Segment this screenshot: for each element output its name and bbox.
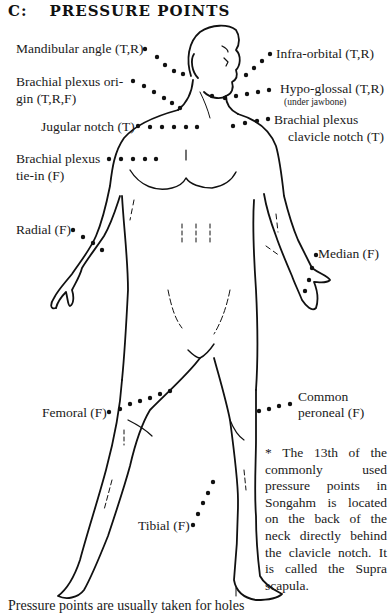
head-outline xyxy=(188,26,239,98)
neck-outline xyxy=(178,80,193,110)
label-common-peroneal-line2: peroneal (F) xyxy=(298,405,364,420)
footnote-supra-scapula: * The 13th of the commonly used pressure… xyxy=(265,445,387,594)
label-brachial-plexus-tie-in-line1: Brachial plexus xyxy=(16,151,100,166)
label-femoral: Femoral (F) xyxy=(42,405,107,420)
torso-left xyxy=(51,110,178,308)
label-common-peroneal-line1: Common xyxy=(298,389,348,404)
label-mandibular-angle: Mandibular angle (T,R) xyxy=(16,41,144,56)
label-jugular-notch: Jugular notch (T) xyxy=(41,119,135,134)
label-brachial-plexus-clavicle-line2: clavicle notch (T) xyxy=(288,129,384,144)
label-brachial-plexus-origin-line2: gin (T,R,F) xyxy=(16,91,76,106)
label-infra-orbital: Infra-orbital (T,R) xyxy=(276,46,374,61)
label-hypo-glossal: Hypo-glossal (T,R) xyxy=(280,81,384,96)
body-text-truncated: Pressure points are usually taken for ho… xyxy=(8,598,244,614)
label-brachial-plexus-origin-line1: Brachial plexus ori- xyxy=(16,74,123,89)
label-radial: Radial (F) xyxy=(16,222,71,237)
label-tibial: Tibial (F) xyxy=(138,518,190,533)
label-brachial-plexus-clavicle-line1: Brachial plexus xyxy=(274,112,358,127)
label-hypo-glossal-note: (under jawbone) xyxy=(284,97,347,107)
label-median: Median (F) xyxy=(318,246,379,261)
left-leg xyxy=(58,358,200,598)
label-brachial-plexus-tie-in-line2: tie-in (F) xyxy=(16,168,64,183)
